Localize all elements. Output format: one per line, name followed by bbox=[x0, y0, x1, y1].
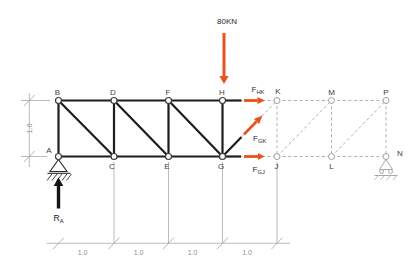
node-A-label: A bbox=[46, 146, 52, 155]
roller-wheel bbox=[389, 170, 393, 174]
node-N-label: N bbox=[397, 149, 403, 158]
load-label: 80KN bbox=[217, 17, 237, 26]
force-label-fgj: FGJ bbox=[253, 165, 265, 175]
node-K-marker bbox=[274, 98, 280, 104]
node-H-label: H bbox=[219, 88, 225, 97]
ghost-structure-layer bbox=[223, 101, 387, 157]
ground-hatch bbox=[67, 174, 72, 181]
node-J-marker bbox=[274, 154, 280, 160]
ghost-member-L-P bbox=[332, 101, 387, 157]
ground-hatch bbox=[47, 174, 52, 181]
node-L-marker bbox=[329, 154, 335, 160]
ghost-member-J-M bbox=[277, 101, 332, 157]
node-M-label: M bbox=[328, 88, 335, 97]
node-G-label: G bbox=[218, 162, 224, 171]
labels-layer: ABCDEFGHJKLMNP80KNFHKFGKFGJRA1.01.01.01.… bbox=[26, 17, 403, 256]
node-F-label: F bbox=[166, 88, 171, 97]
member-B-C bbox=[59, 101, 115, 157]
force-label-fhk: FHK bbox=[252, 85, 265, 95]
force-arrows-layer bbox=[54, 33, 265, 209]
force-arrow-fgk bbox=[244, 115, 263, 134]
diagram-canvas: ABCDEFGHJKLMNP80KNFHKFGKFGJRA1.01.01.01.… bbox=[0, 0, 415, 274]
roller-wheel bbox=[380, 170, 384, 174]
load-arrow-head bbox=[219, 76, 228, 84]
dimension-label-vertical: 1.0 bbox=[26, 123, 33, 133]
force-label-sub: HK bbox=[256, 89, 264, 95]
dimension-label: 1.0 bbox=[134, 249, 144, 256]
node-P-marker bbox=[383, 98, 389, 104]
node-P-label: P bbox=[383, 88, 388, 97]
ground-hatch bbox=[375, 176, 379, 180]
dimension-label: 1.0 bbox=[78, 249, 88, 256]
pin-triangle bbox=[50, 160, 67, 172]
dimension-label: 1.0 bbox=[242, 249, 252, 256]
member-F-G bbox=[169, 101, 223, 157]
force-arrow-fhk bbox=[244, 97, 265, 104]
node-C-marker bbox=[111, 154, 117, 160]
node-F-marker bbox=[166, 98, 172, 104]
force-label-sub: GK bbox=[258, 138, 267, 144]
node-B-label: B bbox=[55, 88, 60, 97]
ground-hatch bbox=[387, 176, 391, 180]
member-D-E bbox=[114, 101, 169, 157]
reaction-arrow bbox=[54, 178, 64, 209]
force-arrow-fgj bbox=[244, 153, 265, 160]
reaction-label: RA bbox=[54, 213, 64, 224]
node-E-marker bbox=[166, 154, 172, 160]
node-N-marker bbox=[383, 154, 389, 160]
pin-support bbox=[47, 160, 72, 181]
node-H-marker bbox=[220, 98, 226, 104]
ground-hatch bbox=[52, 174, 57, 181]
force-label-fgk: FGK bbox=[253, 134, 266, 144]
roller-triangle bbox=[380, 160, 393, 170]
node-B-marker bbox=[56, 98, 62, 104]
ground-hatch bbox=[381, 176, 385, 180]
node-E-label: E bbox=[164, 162, 169, 171]
node-C-label: C bbox=[109, 162, 115, 171]
ground-hatch bbox=[62, 174, 67, 181]
reaction-label-sub: A bbox=[60, 218, 64, 224]
ground-hatch bbox=[393, 176, 397, 180]
truss-diagram: ABCDEFGHJKLMNP80KNFHKFGKFGJRA1.01.01.01.… bbox=[0, 0, 415, 274]
node-L-label: L bbox=[329, 162, 334, 171]
force-arrow-fgj-head bbox=[258, 153, 265, 160]
dimension-label: 1.0 bbox=[188, 249, 198, 256]
node-D-marker bbox=[111, 98, 117, 104]
reaction-arrow-head bbox=[54, 178, 64, 187]
node-J-label: J bbox=[275, 162, 279, 171]
load-arrow bbox=[219, 33, 228, 84]
force-arrow-fgk-shaft bbox=[244, 122, 257, 135]
node-A-marker bbox=[56, 154, 62, 160]
force-arrow-fhk-head bbox=[258, 97, 266, 104]
roller-support bbox=[375, 160, 398, 181]
node-G-marker bbox=[220, 154, 226, 160]
cut-member-stub-1 bbox=[223, 137, 242, 157]
truss-members-layer bbox=[59, 101, 242, 157]
node-D-label: D bbox=[110, 88, 116, 97]
node-K-label: K bbox=[275, 87, 281, 96]
node-M-marker bbox=[329, 98, 335, 104]
force-label-sub: GJ bbox=[257, 169, 265, 175]
